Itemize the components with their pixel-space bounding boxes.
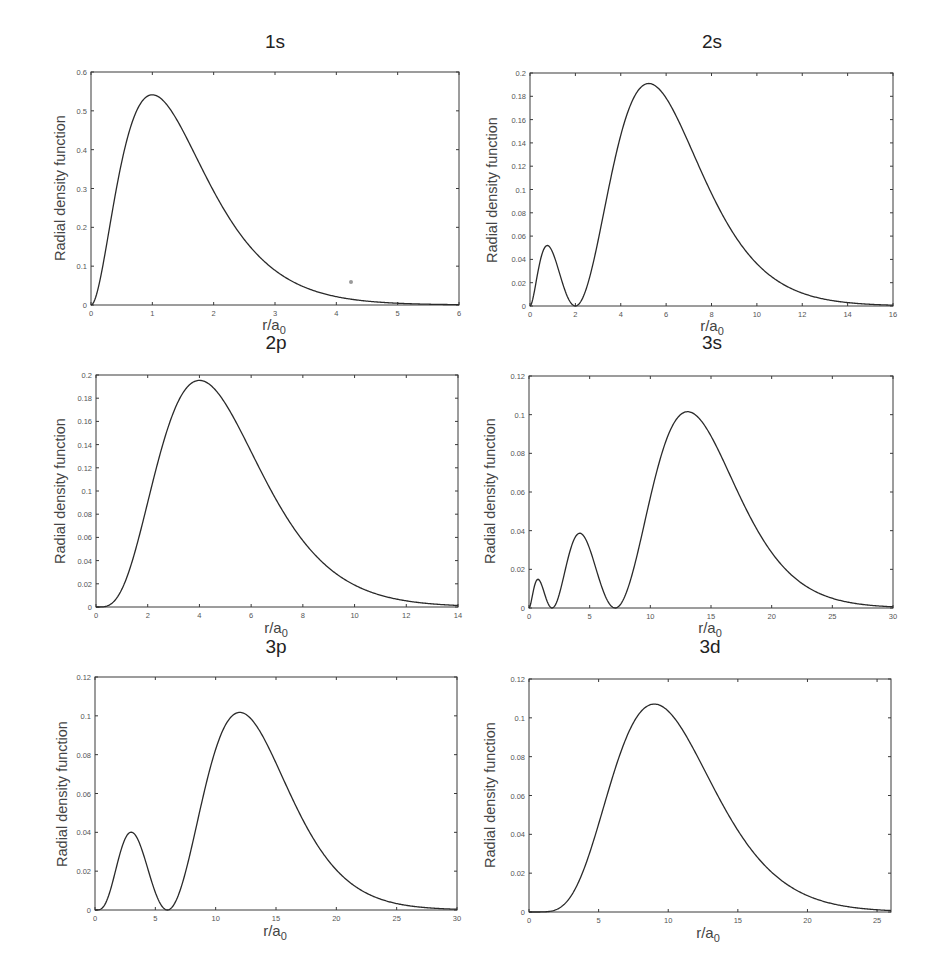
plot-area-3d: 00.020.040.060.080.10.120510152025	[0, 0, 942, 980]
y-tick-label: 0.04	[510, 830, 525, 839]
y-tick-label: 0.06	[510, 792, 525, 801]
y-tick-label: 0.02	[510, 869, 525, 878]
x-tick-label: 10	[664, 916, 672, 925]
plot-frame	[529, 679, 891, 912]
x-tick-label: 20	[803, 916, 811, 925]
x-tick-label: 5	[597, 916, 601, 925]
x-tick-label: 0	[527, 916, 531, 925]
y-tick-label: 0.08	[510, 753, 525, 762]
x-tick-label: 25	[873, 916, 881, 925]
scan-speck	[349, 280, 353, 284]
x-tick-label: 15	[734, 916, 742, 925]
y-tick-label: 0.1	[515, 714, 525, 723]
y-tick-label: 0.12	[510, 675, 525, 684]
radial-density-curve-3d	[529, 704, 891, 912]
y-tick-label: 0	[521, 908, 525, 917]
